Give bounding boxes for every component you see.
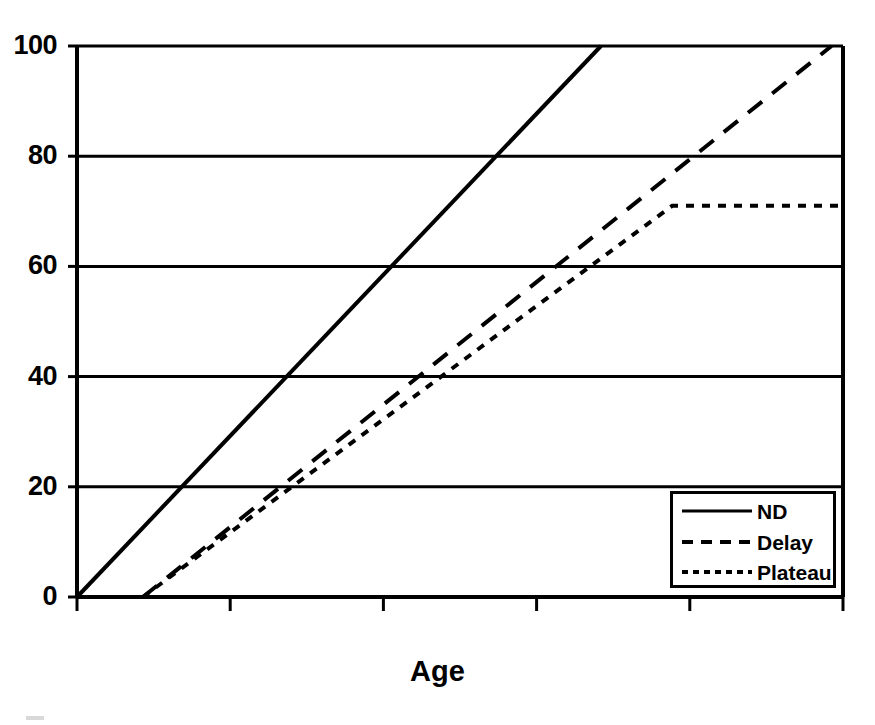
legend-swatch-dotted bbox=[678, 565, 756, 579]
series-line-nd bbox=[77, 46, 601, 597]
y-axis-label-40: 40 bbox=[0, 363, 57, 390]
legend-entry-plateau: Plateau bbox=[673, 556, 833, 588]
x-axis-ticks bbox=[77, 597, 843, 611]
chart-legend: ND Delay Plateau bbox=[670, 491, 836, 588]
y-axis-label-100: 100 bbox=[0, 32, 57, 59]
y-axis-label-20: 20 bbox=[0, 473, 57, 500]
legend-label-plateau: Plateau bbox=[757, 562, 832, 583]
legend-entry-delay: Delay bbox=[673, 526, 833, 558]
legend-entry-nd: ND bbox=[673, 495, 833, 527]
chart-figure: 100806040200 Age ND Delay bbox=[0, 0, 875, 725]
scan-artifact bbox=[26, 716, 44, 720]
y-axis-label-80: 80 bbox=[0, 142, 57, 169]
y-axis-label-0: 0 bbox=[0, 583, 57, 610]
legend-swatch-solid bbox=[678, 504, 756, 518]
y-axis-label-60: 60 bbox=[0, 252, 57, 279]
gridlines bbox=[77, 46, 843, 487]
x-axis-title: Age bbox=[0, 655, 875, 688]
line-chart-plot bbox=[0, 0, 875, 725]
legend-label-delay: Delay bbox=[757, 532, 813, 553]
legend-swatch-dashed bbox=[678, 535, 756, 549]
legend-label-nd: ND bbox=[757, 501, 787, 522]
